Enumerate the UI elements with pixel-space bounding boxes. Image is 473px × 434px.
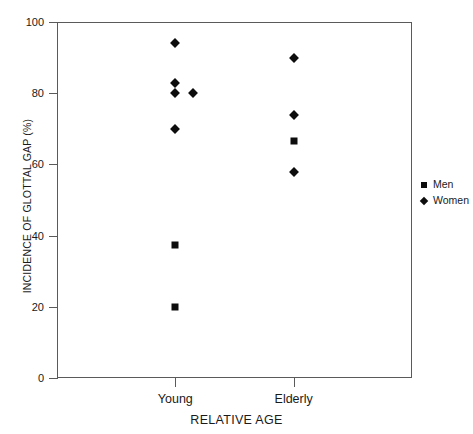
y-axis-tick bbox=[49, 93, 58, 94]
data-point-women bbox=[289, 53, 299, 63]
y-axis-tick bbox=[49, 164, 58, 165]
data-point-women bbox=[170, 78, 180, 88]
legend-item-men: Men bbox=[419, 178, 473, 191]
legend-label: Women bbox=[433, 194, 469, 207]
x-axis-tick-label-young: Young bbox=[158, 392, 193, 406]
data-point-men bbox=[290, 138, 297, 145]
legend: MenWomen bbox=[414, 178, 473, 210]
y-axis-tick bbox=[49, 307, 58, 308]
data-point-men bbox=[172, 241, 179, 248]
data-point-women bbox=[170, 124, 180, 134]
y-axis-label: INCIDENCE OF GLOTTAL GAP (%) bbox=[21, 91, 33, 321]
y-axis-tick bbox=[49, 236, 58, 237]
legend-label: Men bbox=[433, 178, 453, 191]
data-point-women bbox=[289, 110, 299, 120]
data-point-women bbox=[170, 88, 180, 98]
square-marker-icon bbox=[421, 182, 427, 188]
plot-area bbox=[57, 22, 412, 378]
x-axis-tick bbox=[294, 378, 295, 387]
x-axis-label: RELATIVE AGE bbox=[0, 413, 473, 427]
y-axis-tick bbox=[49, 22, 58, 23]
x-axis-tick-label-elderly: Elderly bbox=[275, 392, 313, 406]
legend-item-women: Women bbox=[419, 194, 473, 207]
y-axis-tick-label: 0 bbox=[4, 373, 44, 384]
x-axis-tick bbox=[175, 378, 176, 387]
scatter-chart-figure: 020406080100 INCIDENCE OF GLOTTAL GAP (%… bbox=[0, 0, 473, 434]
data-point-women bbox=[170, 38, 180, 48]
data-point-men bbox=[172, 303, 179, 310]
y-axis-tick-label: 100 bbox=[4, 17, 44, 28]
diamond-marker-icon bbox=[420, 196, 428, 204]
data-point-women bbox=[188, 88, 198, 98]
data-point-women bbox=[289, 167, 299, 177]
y-axis-tick bbox=[49, 378, 58, 379]
